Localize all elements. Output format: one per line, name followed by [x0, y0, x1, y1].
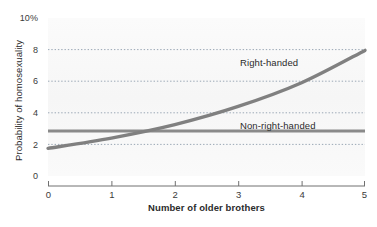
series-right-handed: [48, 50, 365, 148]
x-tick-label-4: 4: [290, 189, 314, 200]
line-right-handed: [48, 50, 365, 148]
x-tick-label-3: 3: [227, 189, 251, 200]
series-label-right-handed: Right-handed: [240, 57, 298, 68]
x-tick-label-2: 2: [163, 189, 187, 200]
x-axis-title: Number of older brothers: [48, 202, 365, 213]
x-tick-label-0: 0: [37, 189, 61, 200]
y-tick-label-10: 10%: [4, 13, 38, 23]
y-tick-label-8: 8: [4, 45, 38, 55]
x-tick-label-5: 5: [353, 189, 377, 200]
y-tick-label-0: 0: [4, 171, 38, 181]
y-tick-label-6: 6: [4, 76, 38, 86]
y-tick-label-4: 4: [4, 108, 38, 118]
series-label-non-right-handed: Non-right-handed: [240, 120, 316, 131]
chart-container: Probability of homosexuality 10% 8 6 4 2…: [0, 0, 377, 227]
y-tick-label-2: 2: [4, 140, 38, 150]
x-axis: [48, 181, 365, 186]
x-tick-label-1: 1: [100, 189, 124, 200]
